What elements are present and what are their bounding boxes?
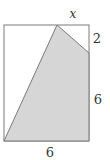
- geometry-figure: x 2 6 6: [0, 0, 110, 160]
- label-right-top: 2: [93, 31, 101, 46]
- label-x: x: [70, 7, 77, 21]
- label-bottom: 6: [46, 145, 54, 160]
- label-right-bottom: 6: [94, 92, 102, 107]
